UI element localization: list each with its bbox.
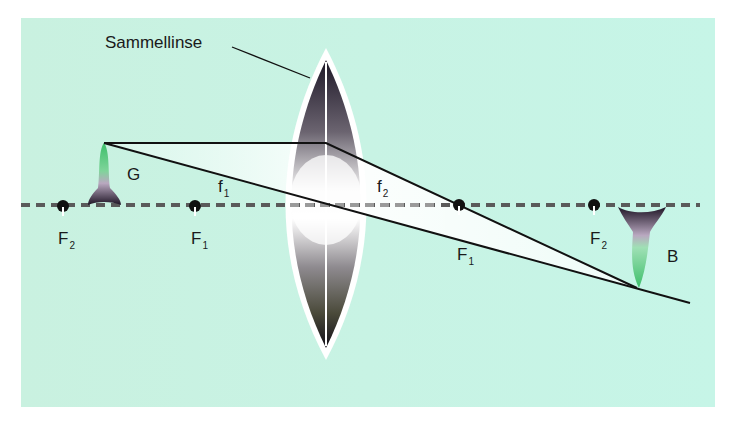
focal-point-label-right-outer: F2	[590, 230, 607, 251]
focal-point-label-right-inner: F1	[457, 246, 474, 267]
focal-point-right-outer	[588, 199, 600, 215]
focal-point-left-inner	[189, 200, 201, 216]
image-arrow-icon	[618, 207, 666, 288]
focal-point-label-left-inner: F1	[191, 230, 208, 251]
image-label: B	[667, 248, 678, 265]
lens-label-leader	[232, 47, 310, 78]
object-label: G	[127, 166, 140, 183]
focal-length-label-2: f2	[377, 178, 388, 199]
lens-label: Sammellinse	[105, 34, 202, 51]
center-ray	[104, 143, 690, 303]
object-arrow-icon	[88, 143, 121, 205]
focal-point-left-outer	[57, 200, 69, 216]
lens-diagram	[0, 0, 734, 424]
focal-point-label-left-outer: F2	[58, 230, 75, 251]
focal-length-label-1: f1	[218, 178, 229, 199]
